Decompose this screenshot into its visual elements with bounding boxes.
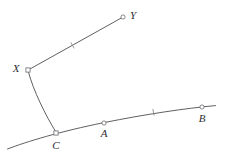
vertex-marker-a[interactable] (102, 121, 106, 125)
vertex-marker-x[interactable] (26, 68, 30, 72)
geometry-canvas: XYCAB (0, 0, 226, 157)
vertex-marker-c[interactable] (54, 131, 58, 135)
point-label-x: X (12, 62, 21, 74)
figure-background (0, 0, 226, 157)
vertex-marker-b[interactable] (200, 105, 204, 109)
point-label-b: B (199, 112, 206, 124)
vertex-marker-y[interactable] (121, 15, 125, 19)
point-label-c: C (52, 139, 60, 151)
geometry-figure: XYCAB (0, 0, 226, 157)
point-label-a: A (100, 127, 108, 139)
